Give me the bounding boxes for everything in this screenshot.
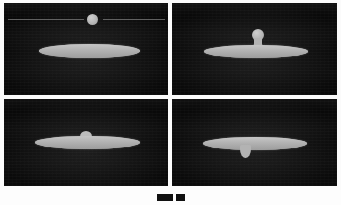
caption-strip [0,190,341,205]
liquid-lamella [39,44,140,58]
figure-root [0,0,341,205]
caption-marker-right [176,194,185,201]
frame-panel-pinchoff[interactable] [172,99,337,186]
lamella-sheen [204,45,308,58]
caption-marker-left [157,194,173,201]
frame-panel-approach[interactable] [4,3,168,95]
panel-grid [0,0,341,190]
pendant-droplet [240,145,251,158]
liquid-lamella [204,45,308,58]
reference-line-right [103,19,165,20]
frame-panel-merging[interactable] [4,99,168,186]
frame-panel-contact[interactable] [172,3,337,95]
reference-line-left [8,19,84,20]
liquid-lamella [203,137,307,150]
free-droplet [87,14,98,25]
lamella-sheen [35,136,140,149]
liquid-lamella [35,136,140,149]
lamella-sheen [203,137,307,150]
lamella-sheen [39,44,140,58]
